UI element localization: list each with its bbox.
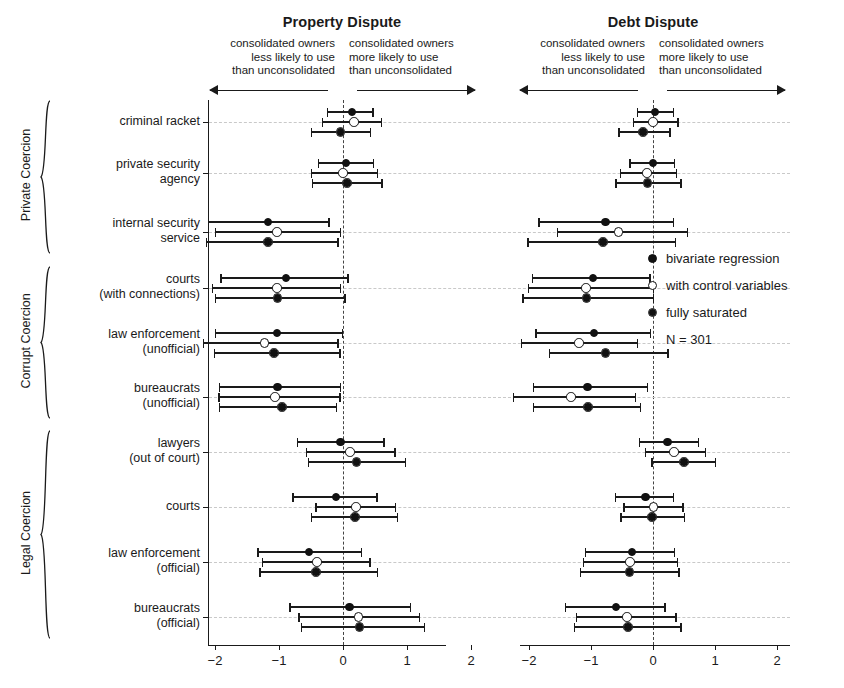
- ci-cap-lo-0-6-saturated: [308, 458, 309, 467]
- ci-cap-hi-0-0-bivariate: [372, 108, 373, 117]
- gridline-row-1: [209, 173, 790, 174]
- legend-label-2: fully saturated: [666, 302, 747, 324]
- ci-cap-lo-0-7-controls: [315, 503, 316, 512]
- ci-cap-lo-1-3-bivariate: [532, 274, 533, 283]
- ci-cap-lo-1-9-saturated: [574, 623, 575, 632]
- ci-cap-lo-1-9-controls: [576, 613, 577, 622]
- y-axis-spine: [208, 100, 209, 645]
- panel-title-0: Property Dispute: [222, 14, 462, 30]
- ci-cap-hi-1-6-controls: [705, 448, 706, 457]
- arrow-right-1: [667, 84, 785, 96]
- x-tick-label-0--1: −1: [264, 653, 294, 668]
- point-1-6-controls: [669, 447, 679, 457]
- ci-cap-lo-1-2-bivariate: [538, 218, 539, 227]
- ci-cap-lo-1-7-controls: [623, 503, 624, 512]
- point-1-0-bivariate: [651, 108, 660, 117]
- point-1-2-saturated: [598, 237, 608, 247]
- ci-cap-hi-1-0-bivariate: [673, 108, 674, 117]
- ci-cap-hi-1-5-bivariate: [647, 383, 648, 392]
- ci-cap-lo-1-7-saturated: [620, 513, 621, 522]
- ci-cap-hi-0-9-bivariate: [410, 603, 411, 612]
- ci-cap-lo-0-0-bivariate: [327, 108, 328, 117]
- x-tick-1--1: [591, 645, 592, 650]
- ci-cap-hi-0-2-bivariate: [328, 218, 329, 227]
- ci-cap-lo-0-4-saturated: [214, 349, 215, 358]
- x-tick-1-0: [653, 645, 654, 650]
- legend-n-row: N = 301: [648, 329, 838, 349]
- ci-cap-lo-0-8-saturated: [259, 568, 260, 577]
- y-tick-1: [203, 173, 209, 174]
- panel-note-left-1: consolidated ownersless likely to usetha…: [513, 37, 645, 78]
- point-0-8-bivariate: [305, 548, 314, 557]
- ci-cap-lo-0-3-saturated: [215, 294, 216, 303]
- ci-cap-lo-0-4-controls: [203, 339, 204, 348]
- row-label-4: law enforcement(unofficial): [60, 327, 200, 356]
- point-1-4-controls: [574, 338, 584, 348]
- ci-cap-hi-0-1-bivariate: [373, 159, 374, 168]
- point-0-9-saturated: [355, 622, 365, 632]
- ci-cap-lo-0-1-saturated: [312, 179, 313, 188]
- ci-cap-hi-1-8-bivariate: [674, 548, 675, 557]
- x-axis-0: [208, 645, 446, 646]
- x-tick-0-2: [471, 645, 472, 650]
- point-0-4-controls: [260, 338, 270, 348]
- point-1-9-bivariate: [612, 603, 621, 612]
- point-0-1-controls: [338, 168, 348, 178]
- point-0-7-bivariate: [332, 493, 341, 502]
- ci-cap-hi-1-5-saturated: [640, 403, 641, 412]
- point-1-5-controls: [566, 392, 576, 402]
- legend-marker-filled-icon: [648, 254, 657, 263]
- legend-marker-open-icon: [648, 281, 657, 290]
- ci-cap-hi-0-9-controls: [419, 613, 420, 622]
- group-brace-1: [40, 266, 50, 419]
- point-1-7-controls: [649, 502, 659, 512]
- group-brace-2: [40, 430, 50, 639]
- group-brace-0: [40, 100, 50, 254]
- point-1-3-bivariate: [589, 274, 598, 283]
- point-0-3-saturated: [273, 293, 283, 303]
- legend-label-0: bivariate regression: [666, 248, 779, 270]
- legend-item-1: with control variables: [648, 275, 838, 302]
- point-0-8-controls: [312, 557, 322, 567]
- x-tick-0--1: [279, 645, 280, 650]
- ci-cap-hi-1-7-saturated: [684, 513, 685, 522]
- point-0-6-saturated: [352, 457, 362, 467]
- ci-cap-lo-0-5-bivariate: [219, 383, 220, 392]
- point-0-5-saturated: [277, 402, 287, 412]
- point-1-7-bivariate: [641, 493, 650, 502]
- y-tick-7: [203, 507, 209, 508]
- ci-cap-hi-0-5-bivariate: [340, 383, 341, 392]
- point-1-0-saturated: [638, 127, 648, 137]
- ci-cap-lo-0-3-bivariate: [220, 274, 221, 283]
- point-0-8-saturated: [311, 567, 321, 577]
- point-1-5-saturated: [583, 402, 593, 412]
- point-1-1-controls: [642, 168, 652, 178]
- point-1-4-bivariate: [590, 329, 599, 338]
- ci-cap-lo-0-3-controls: [212, 284, 213, 293]
- ci-cap-lo-0-8-controls: [262, 558, 263, 567]
- ci-cap-lo-1-0-saturated: [618, 128, 619, 137]
- x-tick-label-0--2: −2: [200, 653, 230, 668]
- y-tick-5: [203, 397, 209, 398]
- ci-cap-hi-1-9-controls: [675, 613, 676, 622]
- ci-cap-lo-0-5-saturated: [219, 403, 220, 412]
- ci-cap-hi-0-6-saturated: [405, 458, 406, 467]
- ci-cap-lo-0-0-saturated: [311, 128, 312, 137]
- ci-cap-lo-1-1-controls: [620, 169, 621, 178]
- point-1-0-controls: [648, 117, 658, 127]
- ci-cap-hi-0-8-bivariate: [361, 548, 362, 557]
- x-tick-label-0-1: 1: [392, 653, 422, 668]
- ci-cap-lo-1-2-saturated: [527, 238, 528, 247]
- ci-cap-lo-1-3-saturated: [522, 294, 523, 303]
- row-label-6: lawyers(out of court): [60, 436, 200, 465]
- point-0-6-controls: [345, 447, 355, 457]
- ci-cap-hi-0-1-controls: [377, 169, 378, 178]
- legend: bivariate regressionwith control variabl…: [648, 248, 838, 349]
- arrow-left-0: [210, 84, 328, 96]
- x-tick-label-1-0: 0: [638, 653, 668, 668]
- point-0-1-bivariate: [342, 159, 351, 168]
- y-tick-2: [203, 232, 209, 233]
- point-0-5-bivariate: [273, 383, 282, 392]
- point-0-7-controls: [351, 502, 361, 512]
- point-0-6-bivariate: [336, 438, 345, 447]
